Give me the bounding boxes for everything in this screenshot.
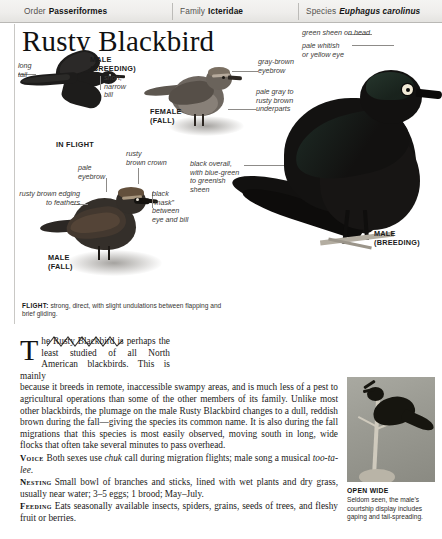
label-rusty-brown-crown: rusty brown crown (126, 150, 182, 167)
photo-caption: OPEN WIDE Seldom seen, the male’s courts… (347, 487, 439, 522)
section-body-nesting: Small bowl of branches and sticks, lined… (20, 477, 338, 499)
order-key: Order (24, 6, 46, 16)
label-female-fall: FEMALE (FALL) (150, 108, 200, 126)
field-guide-page: Order Passeriformes Family Icteridae Spe… (0, 0, 442, 539)
section-body-voice: Both sexes use chuk call during migratio… (20, 453, 338, 475)
flight-heading: FLIGHT: (22, 302, 49, 309)
photo-image (347, 377, 435, 482)
photo-caption-title: OPEN WIDE (347, 487, 439, 495)
label-in-flight: IN FLIGHT (56, 141, 116, 150)
illustration-plate: long tail MALE (BREEDING) short, narrow … (0, 46, 442, 336)
taxonomy-family: Family Icteridae (180, 0, 243, 22)
species-key: Species (306, 6, 336, 16)
leader-black-overall (244, 165, 284, 166)
header-divider-2 (298, 3, 299, 20)
label-pale-eyebrow: pale eyebrow (78, 164, 120, 181)
section-heading-nesting: Nesting (20, 477, 52, 487)
leader-bill (100, 76, 101, 90)
bird-male-breeding-perched-illustration (224, 40, 434, 320)
leader-pale-eye (352, 45, 394, 46)
label-male-breeding-perched: MALE (BREEDING) (374, 230, 434, 248)
photo-open-wide (347, 377, 435, 482)
flight-text: strong, direct, with slight undulations … (22, 302, 221, 317)
intro-paragraph-narrow: he Rusty Blackbird is perhaps the least … (20, 336, 170, 382)
family-key: Family (180, 6, 205, 16)
photo-caption-text: Seldom seen, the male’s courtship displa… (347, 496, 423, 520)
taxonomy-header-bar: Order Passeriformes Family Icteridae Spe… (0, 0, 442, 23)
label-pale-eye: pale whitish or yellow eye (302, 42, 358, 59)
species-value: Euphagus carolinus (339, 6, 420, 16)
label-black-mask: black “mask” between eye and bill (152, 190, 204, 224)
header-divider-1 (172, 3, 173, 20)
section-feeding: FeedingEats seasonally available insects… (20, 501, 338, 524)
label-male-breeding-flight: MALE (BREEDING) (90, 56, 150, 74)
label-male-fall: MALE (FALL) (48, 254, 94, 272)
section-nesting: NestingSmall bowl of branches and sticks… (20, 477, 338, 500)
flight-description: FLIGHT: strong, direct, with slight undu… (22, 302, 222, 319)
section-heading-voice: Voice (20, 453, 44, 463)
species-account-text: T he Rusty Blackbird is perhaps the leas… (20, 336, 338, 525)
family-value: Icteridae (208, 6, 243, 16)
taxonomy-order: Order Passeriformes (24, 0, 107, 22)
drop-cap: T (20, 336, 41, 362)
label-rusty-brown-edging: rusty brown edging to feathers (6, 190, 80, 207)
leader-rusty-crown (138, 168, 139, 184)
order-value: Passeriformes (49, 6, 108, 16)
label-long-tail: long tail (18, 62, 58, 79)
intro-paragraph-rest: because it breeds in remote, inaccessibl… (20, 382, 338, 452)
section-voice: VoiceBoth sexes use chuk call during mig… (20, 453, 338, 476)
label-black-overall: black overall, with blue-green to greeni… (190, 160, 248, 194)
section-heading-feeding: Feeding (20, 501, 52, 511)
section-body-feeding: Eats seasonally available insects, spide… (20, 501, 338, 523)
label-short-narrow-bill: short, narrow bill (104, 74, 144, 100)
photo-background (347, 377, 435, 482)
label-green-sheen: green sheen on head (290, 29, 370, 38)
taxonomy-species: Species Euphagus carolinus (306, 0, 420, 22)
photo-ground-tuft (359, 469, 395, 482)
